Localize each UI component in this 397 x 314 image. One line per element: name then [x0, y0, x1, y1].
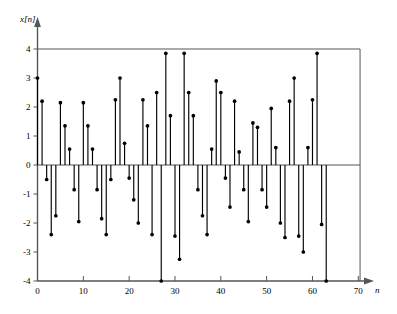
stem-marker — [292, 76, 296, 80]
x-tick-label: 0 — [35, 286, 40, 296]
x-axis-label: n — [375, 285, 380, 295]
stem-marker — [123, 141, 127, 145]
y-tick-label: 3 — [26, 73, 31, 83]
stem-marker — [45, 178, 49, 182]
y-tick-label: 2 — [26, 102, 31, 112]
stem-marker — [159, 279, 163, 283]
stem-marker — [228, 205, 232, 209]
x-tick-label: 70 — [354, 286, 364, 296]
stem-marker — [54, 214, 58, 218]
x-tick-label: 60 — [308, 286, 318, 296]
stem-marker — [214, 79, 218, 83]
stem-marker — [274, 146, 278, 150]
stem-marker — [191, 114, 195, 118]
stem-marker — [49, 233, 53, 237]
x-tick-label: 30 — [170, 286, 180, 296]
stem-marker — [301, 250, 305, 254]
y-tick-label: 4 — [26, 44, 31, 54]
stem-marker — [36, 76, 40, 80]
stem-series — [38, 53, 327, 281]
stem-marker — [205, 233, 209, 237]
y-tick-label: -1 — [23, 189, 31, 199]
stem-marker — [251, 121, 255, 125]
stem-marker — [109, 178, 113, 182]
stem-marker — [155, 91, 159, 95]
stem-marker — [283, 236, 287, 240]
stem-marker — [196, 188, 200, 192]
stem-marker — [72, 188, 76, 192]
stem-marker — [201, 214, 205, 218]
stem-marker — [114, 98, 118, 102]
stem-marker — [182, 52, 186, 56]
stem-marker — [320, 223, 324, 227]
stem-marker — [242, 188, 246, 192]
plot-frame — [38, 49, 361, 281]
y-axis: -4-3-2-101234 — [23, 17, 41, 286]
stem-markers — [36, 52, 328, 283]
stem-marker — [127, 176, 131, 180]
stem-marker — [132, 198, 136, 202]
stem-marker — [86, 124, 90, 128]
y-tick-label: -4 — [23, 276, 31, 286]
stem-marker — [91, 147, 95, 151]
stem-marker — [324, 279, 328, 283]
y-tick-label: -2 — [23, 218, 31, 228]
stem-marker — [68, 147, 72, 151]
stem-marker — [187, 91, 191, 95]
stem-marker — [288, 99, 292, 103]
x-tick-label: 20 — [125, 286, 135, 296]
stem-marker — [210, 147, 214, 151]
stem-marker — [118, 76, 122, 80]
stem-marker — [95, 188, 99, 192]
stem-marker — [237, 150, 241, 154]
stem-marker — [146, 124, 150, 128]
stem-marker — [279, 221, 283, 225]
stem-marker — [169, 114, 173, 118]
stem-marker — [265, 205, 269, 209]
stem-marker — [269, 107, 273, 111]
stem-marker — [246, 220, 250, 224]
stem-marker — [81, 101, 85, 105]
stem-marker — [104, 233, 108, 237]
stem-marker — [173, 234, 177, 238]
stem-marker — [311, 98, 315, 102]
stem-marker — [164, 52, 168, 56]
x-tick-label: 50 — [262, 286, 272, 296]
stem-plot-canvas: -4-3-2-101234 010203040506070 x[n] n — [0, 0, 397, 314]
stem-marker — [260, 188, 264, 192]
stem-marker — [256, 125, 260, 129]
stem-marker — [233, 99, 237, 103]
x-axis: 010203040506070 — [35, 276, 374, 296]
stem-marker — [219, 91, 223, 95]
y-tick-label: 1 — [26, 131, 31, 141]
stem-plot-figure: -4-3-2-101234 010203040506070 x[n] n — [0, 0, 397, 314]
stem-marker — [141, 98, 145, 102]
stem-marker — [297, 234, 301, 238]
stem-marker — [150, 233, 154, 237]
stem-marker — [77, 220, 81, 224]
stem-marker — [59, 101, 63, 105]
x-tick-label: 40 — [216, 286, 226, 296]
x-tick-label: 10 — [79, 286, 89, 296]
stem-marker — [224, 176, 228, 180]
stem-marker — [40, 99, 44, 103]
stem-marker — [100, 217, 104, 221]
stem-marker — [306, 146, 310, 150]
stem-marker — [136, 221, 140, 225]
stem-marker — [178, 257, 182, 261]
stem-marker — [315, 52, 319, 56]
stem-marker — [63, 124, 67, 128]
x-axis-arrowhead — [364, 278, 374, 285]
y-tick-label: -3 — [23, 247, 31, 257]
y-tick-label: 0 — [26, 160, 31, 170]
y-axis-label: x[n] — [19, 14, 36, 24]
